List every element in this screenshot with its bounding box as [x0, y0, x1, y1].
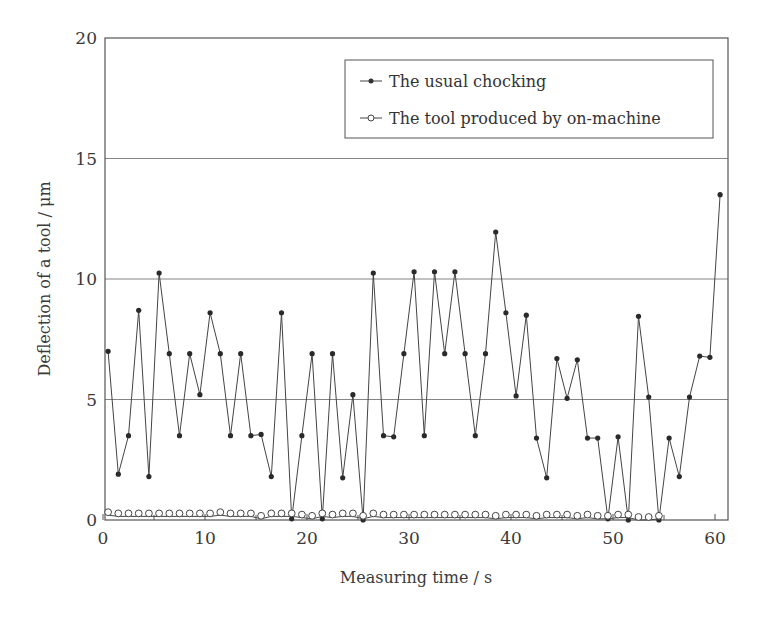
x-tick-label: 0 — [98, 528, 109, 548]
data-point — [269, 474, 274, 479]
data-point — [299, 511, 306, 518]
data-point — [554, 511, 561, 518]
x-tick-label: 10 — [194, 528, 216, 548]
data-point — [452, 269, 457, 274]
data-point — [278, 510, 285, 517]
data-point — [207, 510, 214, 517]
data-point — [605, 512, 612, 519]
legend-label-usual-chocking: The usual chocking — [389, 72, 546, 91]
data-point — [248, 433, 253, 438]
data-point — [554, 356, 559, 361]
y-tick-label: 20 — [75, 28, 97, 48]
y-axis-title: Deflection of a tool / μm — [35, 181, 54, 376]
series-on-machine — [105, 509, 663, 521]
data-point — [381, 433, 386, 438]
gridlines — [105, 159, 728, 400]
data-point — [585, 435, 590, 440]
data-point — [697, 354, 702, 359]
data-point — [441, 511, 448, 518]
data-point — [126, 433, 131, 438]
data-point — [422, 433, 427, 438]
data-point — [646, 394, 651, 399]
data-point — [248, 510, 255, 517]
data-point — [350, 392, 355, 397]
data-point — [310, 351, 315, 356]
data-point — [309, 512, 316, 519]
data-point — [431, 511, 438, 518]
data-point — [421, 511, 428, 518]
data-point — [452, 511, 459, 518]
data-point — [146, 474, 151, 479]
data-point — [380, 511, 387, 518]
data-point — [391, 434, 396, 439]
x-tick-label: 30 — [398, 528, 420, 548]
data-point — [503, 310, 508, 315]
data-point — [595, 435, 600, 440]
data-point — [707, 355, 712, 360]
data-point — [645, 514, 652, 521]
data-point — [125, 510, 132, 517]
data-point — [330, 351, 335, 356]
data-point — [339, 510, 346, 517]
data-point — [412, 269, 417, 274]
data-point — [514, 393, 519, 398]
data-point — [208, 310, 213, 315]
data-point — [105, 509, 112, 516]
line-chart: 05101520 0102030405060 The usual chockin… — [0, 0, 766, 617]
legend-label-on-machine: The tool produced by on-machine — [389, 109, 661, 128]
data-point — [472, 511, 479, 518]
data-point — [442, 351, 447, 356]
legend: The usual chocking The tool produced by … — [345, 60, 713, 138]
y-tick-label: 10 — [75, 269, 97, 289]
data-point — [197, 510, 204, 517]
y-axis-ticks: 05101520 — [75, 28, 97, 530]
data-point — [238, 351, 243, 356]
data-point — [718, 192, 723, 197]
data-point — [533, 512, 540, 519]
data-point — [635, 514, 642, 521]
data-point — [594, 512, 601, 519]
data-point — [534, 435, 539, 440]
data-point — [473, 433, 478, 438]
x-tick-label: 60 — [704, 528, 726, 548]
y-tick-label: 5 — [86, 390, 97, 410]
data-point — [299, 433, 304, 438]
series-group — [105, 192, 723, 523]
data-point — [543, 511, 550, 518]
data-point — [279, 310, 284, 315]
x-axis-ticks: 0102030405060 — [98, 514, 726, 548]
data-point — [584, 511, 591, 518]
data-point — [462, 511, 469, 518]
data-point — [615, 511, 622, 518]
data-point — [544, 475, 549, 480]
data-point — [237, 510, 244, 517]
data-point — [503, 511, 510, 518]
data-point — [187, 351, 192, 356]
data-point — [493, 229, 498, 234]
data-point — [432, 269, 437, 274]
data-point — [574, 512, 581, 519]
data-point — [329, 511, 336, 518]
data-point — [575, 357, 580, 362]
data-point — [390, 511, 397, 518]
data-point — [482, 511, 489, 518]
data-point — [411, 511, 418, 518]
data-point — [227, 510, 234, 517]
data-point — [156, 510, 163, 517]
data-point — [258, 512, 265, 519]
series-usual-chocking — [106, 192, 723, 523]
data-point — [340, 475, 345, 480]
data-point — [146, 510, 153, 517]
data-point — [371, 270, 376, 275]
data-point — [492, 512, 499, 519]
y-tick-label: 0 — [86, 510, 97, 530]
data-point — [186, 510, 193, 517]
data-point — [401, 511, 408, 518]
data-point — [115, 510, 122, 517]
x-axis-title: Measuring time / s — [340, 568, 492, 587]
data-point — [136, 308, 141, 313]
data-point — [135, 510, 142, 517]
data-point — [268, 510, 275, 517]
data-point — [463, 351, 468, 356]
data-point — [564, 511, 571, 518]
